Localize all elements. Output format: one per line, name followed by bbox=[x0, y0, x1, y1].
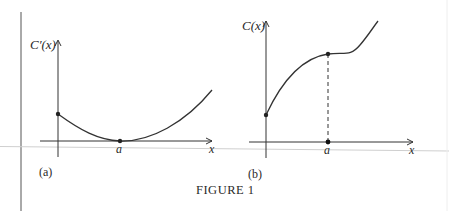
figure-1: C′(x) a x (a) C(x) a x (b) FIGURE 1 bbox=[0, 0, 449, 211]
panel-a-x-axis-label: x bbox=[209, 143, 214, 155]
panel-b-x-axis-label: x bbox=[409, 144, 414, 156]
panel-b-curve bbox=[266, 21, 378, 115]
figure-caption: FIGURE 1 bbox=[196, 184, 255, 197]
panel-a bbox=[40, 40, 212, 157]
panel-b-a-tick-label: a bbox=[324, 144, 330, 156]
panel-b-y-axis-label: C(x) bbox=[242, 19, 265, 32]
panel-b-inflection-point bbox=[326, 52, 330, 56]
panel-b-intercept-point bbox=[264, 113, 268, 117]
panel-a-y-axis-label: C′(x) bbox=[30, 38, 56, 51]
panel-b-label: (b) bbox=[248, 168, 262, 180]
figure-canvas bbox=[0, 0, 449, 211]
panel-a-intercept-point bbox=[56, 112, 60, 116]
panel-a-curve bbox=[58, 90, 212, 141]
scan-rule bbox=[0, 147, 449, 152]
panel-a-label: (a) bbox=[39, 166, 52, 178]
panel-a-a-tick-label: a bbox=[116, 143, 122, 155]
panel-b bbox=[249, 21, 413, 158]
